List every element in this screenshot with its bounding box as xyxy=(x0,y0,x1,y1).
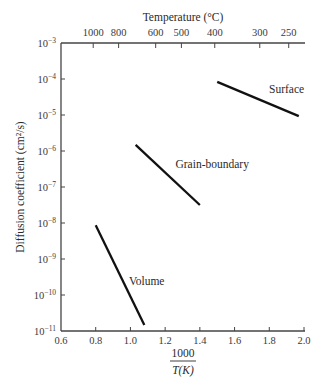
top-tick-label: 1000 xyxy=(83,27,104,38)
x-tick-label: 1.2 xyxy=(159,335,172,346)
x-tick-label: 0.8 xyxy=(89,335,102,346)
x-tick-label: 1.0 xyxy=(124,335,137,346)
y-tick-label: 10−5 xyxy=(38,108,57,121)
series-label-surface: Surface xyxy=(269,83,304,95)
x-axis-title-denominator: T(K) xyxy=(172,364,194,377)
series-label-grain-boundary: Grain-boundary xyxy=(175,158,249,171)
top-tick-label: 600 xyxy=(148,27,164,38)
x-tick-label: 2.0 xyxy=(297,335,310,346)
top-axis-title: Temperature (°C) xyxy=(143,11,224,24)
y-tick-label: 10−11 xyxy=(34,324,56,337)
y-tick-label: 10−8 xyxy=(38,216,57,229)
x-axis-title-numerator: 1000 xyxy=(172,347,195,359)
y-tick-label: 10−9 xyxy=(38,252,57,265)
y-tick-label: 10−4 xyxy=(38,72,57,85)
top-tick-label: 800 xyxy=(111,27,127,38)
x-tick-label: 1.8 xyxy=(263,335,276,346)
top-tick-label: 500 xyxy=(174,27,190,38)
axis-ticks: 0.60.81.01.21.41.61.82.010−310−410−510−6… xyxy=(34,27,311,346)
series-line-grain-boundary xyxy=(136,145,200,205)
x-tick-label: 0.6 xyxy=(54,335,67,346)
y-tick-label: 10−10 xyxy=(34,288,56,301)
top-tick-label: 400 xyxy=(207,27,223,38)
x-tick-label: 1.4 xyxy=(193,335,207,346)
y-axis-title: Diffusion coefficient (cm²/s) xyxy=(14,121,27,253)
x-tick-label: 1.6 xyxy=(228,335,241,346)
diffusion-coefficient-chart: 0.60.81.01.21.41.61.82.010−310−410−510−6… xyxy=(0,0,331,387)
y-tick-label: 10−7 xyxy=(38,180,57,193)
top-tick-label: 300 xyxy=(252,27,268,38)
y-tick-label: 10−6 xyxy=(38,144,57,157)
series-label-volume: Volume xyxy=(129,275,165,287)
top-tick-label: 250 xyxy=(281,27,297,38)
data-series: SurfaceGrain-boundaryVolume xyxy=(96,82,304,325)
y-tick-label: 10−3 xyxy=(38,36,57,49)
